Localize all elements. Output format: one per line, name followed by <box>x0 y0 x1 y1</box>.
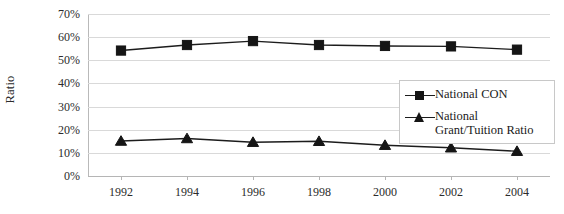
data-point-square <box>116 46 125 55</box>
data-point-square <box>446 42 455 51</box>
legend-square-marker-icon <box>405 89 435 103</box>
data-point-square <box>182 40 191 49</box>
data-point-square <box>512 45 521 54</box>
data-point-square <box>314 40 323 49</box>
legend-item-national-con: National CON <box>405 87 550 103</box>
legend-item-national-grant-tuition-ratio: National Grant/Tuition Ratio <box>405 109 550 137</box>
data-point-triangle <box>181 133 192 143</box>
legend-label: National Grant/Tuition Ratio <box>435 109 534 137</box>
series-1 <box>116 36 521 55</box>
data-point-square <box>248 36 257 45</box>
legend-label: National CON <box>435 87 508 101</box>
legend: National CON National Grant/Tuition Rati… <box>399 80 555 144</box>
legend-triangle-marker-icon <box>405 111 435 125</box>
line-chart: Ratio 0%10%20%30%40%50%60%70% 1992199419… <box>0 0 564 214</box>
data-point-square <box>380 41 389 50</box>
